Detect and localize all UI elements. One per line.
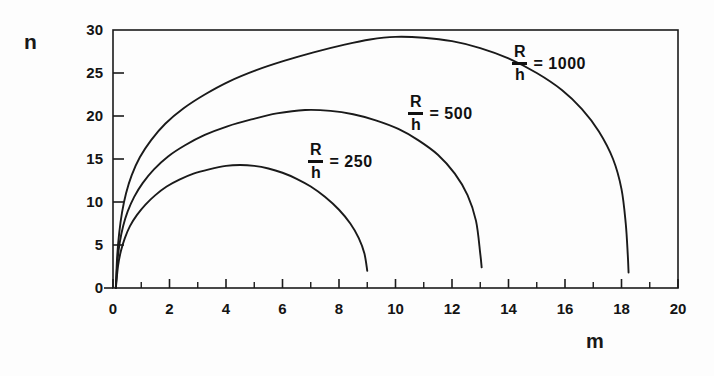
curve-series-1 — [116, 110, 482, 288]
series-label-1000: Rh= 1000 — [512, 44, 586, 83]
x-axis-title: m — [586, 330, 604, 353]
series-label-500: Rh= 500 — [408, 94, 473, 133]
chart-plot-svg — [0, 0, 714, 376]
y-tick-label: 30 — [69, 21, 103, 38]
fraction-numerator: R — [308, 142, 324, 159]
ratio-fraction: Rh — [308, 142, 324, 181]
fraction-numerator: R — [512, 44, 528, 61]
x-tick-label: 18 — [605, 300, 639, 317]
x-tick-label: 20 — [661, 300, 695, 317]
y-tick-label: 10 — [69, 193, 103, 210]
fraction-bar — [308, 160, 323, 163]
x-tick-label: 4 — [209, 300, 243, 317]
x-tick-label: 14 — [492, 300, 526, 317]
x-tick-label: 16 — [548, 300, 582, 317]
chart-figure: n m 051015202530 02468101214161820 Rh= 2… — [0, 0, 714, 376]
x-tick-label: 2 — [153, 300, 187, 317]
fraction-denominator: h — [309, 164, 323, 181]
y-axis-title: n — [24, 30, 37, 54]
x-tick-label: 10 — [379, 300, 413, 317]
y-tick-label: 20 — [69, 107, 103, 124]
x-tick-label: 12 — [435, 300, 469, 317]
ratio-fraction: Rh — [512, 44, 528, 83]
ratio-value: = 250 — [330, 153, 373, 171]
fraction-denominator: h — [513, 66, 527, 83]
ratio-value: = 500 — [430, 105, 473, 123]
ratio-fraction: Rh — [408, 94, 424, 133]
x-tick-label: 0 — [96, 300, 130, 317]
x-tick-label: 8 — [322, 300, 356, 317]
y-tick-label: 25 — [69, 64, 103, 81]
fraction-numerator: R — [408, 94, 424, 111]
plot-frame — [113, 30, 678, 288]
axis-ticks — [104, 73, 678, 288]
fraction-denominator: h — [409, 116, 423, 133]
x-tick-label: 6 — [266, 300, 300, 317]
y-tick-label: 15 — [69, 150, 103, 167]
y-tick-label: 5 — [69, 236, 103, 253]
fraction-bar — [408, 112, 423, 115]
curve-series-0 — [116, 165, 367, 288]
y-tick-label: 0 — [69, 279, 103, 296]
ratio-value: = 1000 — [534, 55, 586, 73]
fraction-bar — [512, 62, 527, 65]
series-label-250: Rh= 250 — [308, 142, 373, 181]
